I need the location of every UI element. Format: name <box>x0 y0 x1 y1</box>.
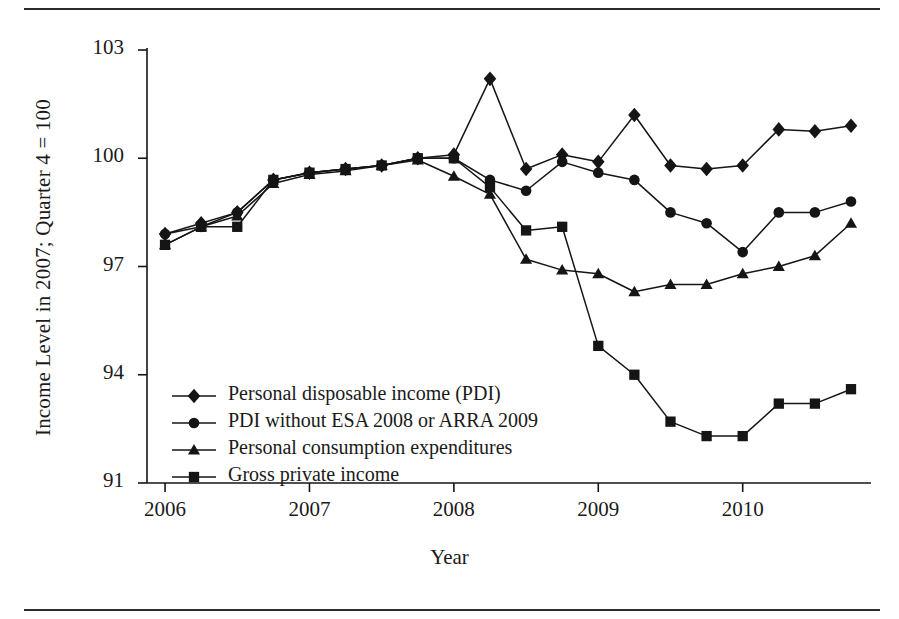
legend-entry-label: PDI without ESA 2008 or ARRA 2009 <box>228 409 538 432</box>
legend-marker-triangle <box>188 444 200 455</box>
data-point-square <box>629 370 639 380</box>
legend-entry-label: Personal consumption expenditures <box>228 436 512 459</box>
data-point-circle <box>846 196 857 207</box>
data-point-circle <box>701 218 712 229</box>
data-point-square <box>232 222 242 232</box>
data-point-circle <box>665 207 676 218</box>
data-point-square <box>449 153 459 163</box>
data-point-square <box>340 164 350 174</box>
data-point-triangle <box>448 170 460 181</box>
data-point-square <box>665 417 675 427</box>
data-point-circle <box>737 247 748 258</box>
legend-layer <box>172 389 216 482</box>
data-point-square <box>377 160 387 170</box>
data-point-triangle <box>520 253 532 264</box>
data-point-square <box>846 384 856 394</box>
data-point-square <box>268 175 278 185</box>
data-point-circle <box>160 229 171 240</box>
data-point-square <box>413 153 423 163</box>
data-point-square <box>774 398 784 408</box>
data-point-diamond <box>700 162 713 177</box>
legend-marker-circle <box>189 418 200 429</box>
data-point-square <box>304 168 314 178</box>
data-point-square <box>160 240 170 250</box>
data-point-triangle <box>664 278 676 289</box>
data-point-diamond <box>484 72 497 87</box>
data-series <box>160 153 857 257</box>
data-point-square <box>593 341 603 351</box>
data-point-circle <box>521 185 532 196</box>
data-point-diamond <box>809 124 822 139</box>
data-point-circle <box>557 157 568 168</box>
data-point-diamond <box>520 162 533 177</box>
data-point-circle <box>593 167 604 178</box>
data-point-square <box>521 225 531 235</box>
legend-marker-square <box>189 472 199 482</box>
data-point-diamond <box>845 118 858 133</box>
data-point-square <box>485 182 495 192</box>
data-point-square <box>701 431 711 441</box>
data-point-square <box>810 398 820 408</box>
data-point-square <box>196 222 206 232</box>
data-point-square <box>557 222 567 232</box>
figure-container: Income Level in 2007; Quarter 4 = 100 Ye… <box>0 0 899 619</box>
data-point-square <box>738 431 748 441</box>
data-point-circle <box>629 175 640 186</box>
data-point-circle <box>773 207 784 218</box>
plot-area <box>0 0 899 619</box>
data-series <box>159 72 857 242</box>
data-series <box>159 154 857 296</box>
legend-entry-label: Gross private income <box>228 463 399 486</box>
legend-marker-diamond <box>188 389 201 404</box>
legend-entry-label: Personal disposable income (PDI) <box>228 382 501 405</box>
data-point-circle <box>810 207 821 218</box>
data-point-triangle <box>845 217 857 228</box>
